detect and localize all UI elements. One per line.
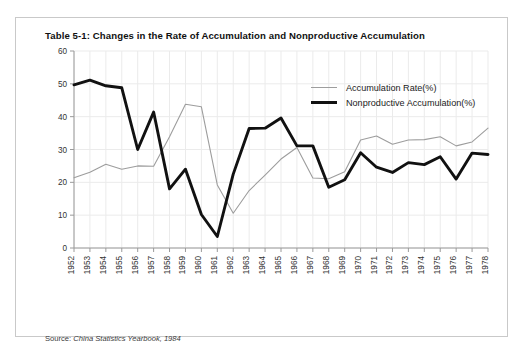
x-axis-tick-label: 1972: [385, 256, 394, 275]
y-axis-tick-label: 30: [58, 146, 68, 155]
figure-frame: Table 5-1: Changes in the Rate of Accumu…: [15, 17, 508, 337]
legend-item-accumulation-rate: Accumulation Rate(%): [311, 80, 521, 95]
chart-title: Table 5-1: Changes in the Rate of Accumu…: [45, 30, 425, 41]
source-note: Source: China Statistics Yearbook, 1984: [45, 334, 181, 343]
y-axis-tick-label: 40: [58, 113, 68, 122]
x-axis-tick-label: 1976: [449, 256, 458, 275]
x-axis-tick-label: 1956: [131, 256, 140, 275]
x-axis-tick-label: 1965: [274, 256, 283, 275]
x-axis-tick-label: 1970: [354, 256, 363, 275]
x-axis-tick-label: 1966: [290, 256, 299, 275]
x-axis-tick-label: 1961: [210, 256, 219, 275]
legend-label: Accumulation Rate(%): [346, 83, 436, 93]
legend-swatch-line-icon: [311, 87, 337, 88]
x-axis-tick-label: 1975: [433, 256, 442, 275]
x-axis-tick-label: 1959: [178, 256, 187, 275]
chart-legend: Accumulation Rate(%) Nonproductive Accum…: [311, 80, 521, 110]
x-axis-tick-label: 1974: [417, 256, 426, 275]
y-axis-tick-label: 20: [58, 178, 68, 187]
x-axis-tick-label: 1968: [322, 256, 331, 275]
source-label: Source:: [45, 334, 73, 343]
legend-label: Nonproductive Accumulation(%): [346, 98, 475, 108]
x-axis-tick-label: 1962: [226, 256, 235, 275]
x-axis-tick-label: 1954: [99, 256, 108, 275]
x-axis-tick-label: 1957: [147, 256, 156, 275]
x-axis-tick-label: 1977: [465, 256, 474, 275]
x-axis-tick-label: 1953: [83, 256, 92, 275]
y-axis-tick-label: 10: [58, 211, 68, 220]
x-axis-tick-label: 1964: [258, 256, 267, 275]
y-axis-tick-label: 60: [58, 47, 68, 56]
x-axis-tick-label: 1955: [115, 256, 124, 275]
x-axis-tick-label: 1963: [242, 256, 251, 275]
legend-item-nonproductive-accumulation: Nonproductive Accumulation(%): [311, 95, 521, 110]
y-axis-tick-label: 0: [62, 244, 67, 253]
x-axis-tick-label: 1960: [194, 256, 203, 275]
x-axis-tick-label: 1973: [401, 256, 410, 275]
x-axis-tick-label: 1971: [370, 256, 379, 275]
y-axis-tick-label: 50: [58, 80, 68, 89]
x-axis-tick-label: 1967: [306, 256, 315, 275]
x-axis-tick-label: 1978: [481, 256, 490, 275]
x-axis-tick-label: 1969: [338, 256, 347, 275]
x-axis-tick-label: 1958: [163, 256, 172, 275]
x-axis-tick-label: 1952: [67, 256, 76, 275]
source-citation: China Statistics Yearbook, 1984: [73, 334, 181, 343]
legend-swatch-line-icon: [311, 101, 337, 104]
